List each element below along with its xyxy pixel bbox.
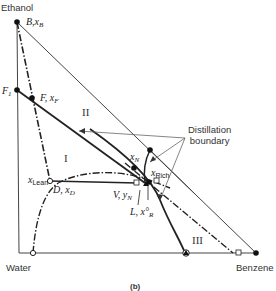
label-l-sub: R [149, 211, 153, 219]
label-xn: xN [130, 152, 139, 164]
point-water [30, 250, 35, 255]
ternary-diagram-graphics [0, 0, 276, 291]
label-d-name: D [53, 184, 60, 195]
label-v: V, yN [113, 190, 132, 202]
label-b: B,xB [26, 17, 43, 29]
point-f [29, 95, 35, 101]
region-label-i: I [64, 153, 68, 164]
label-xlean: xLean [28, 175, 48, 186]
label-l-var: x° [141, 206, 149, 217]
pointer-line-1 [79, 131, 185, 138]
label-f-sub: F [54, 97, 58, 105]
arrowhead-1 [79, 128, 85, 134]
point-bottom-square [236, 250, 241, 255]
point-v-square [134, 180, 139, 185]
vertex-label-water: Water [6, 263, 31, 274]
label-f-name: F [40, 92, 45, 103]
label-l: L, x°R [130, 207, 153, 219]
label-f1-sub: 1 [8, 90, 12, 98]
point-benzene [253, 250, 259, 256]
label-xrich: xRich [151, 168, 169, 179]
region-label-ii: II [82, 107, 89, 118]
label-l-name: L [130, 206, 136, 217]
ternary-diagram: Ethanol Water Benzene B,xB F1 F, xF xLea… [0, 0, 276, 291]
label-b-sub: B [39, 21, 43, 29]
point-d [47, 178, 52, 183]
point-f1 [14, 87, 20, 93]
v-marker-line [138, 190, 140, 205]
label-xrich-sub: Rich [155, 172, 169, 179]
label-xn-sub: N [134, 156, 139, 164]
annotation-line-2: boundary [188, 136, 231, 147]
vertex-label-ethanol: Ethanol [1, 3, 33, 14]
label-xlean-sub: Lean [32, 179, 48, 186]
label-v-sub: N [127, 194, 132, 202]
figure-caption: (b) [130, 282, 140, 291]
label-v-name: V [113, 189, 118, 200]
label-f: F, xF [40, 93, 59, 105]
region-label-iii: III [192, 235, 203, 246]
vertex-label-benzene: Benzene [236, 263, 274, 274]
label-b-name: B [26, 16, 32, 27]
label-d: D, xD [53, 185, 75, 197]
f1-to-l-line [17, 90, 145, 183]
label-f1: F1 [2, 86, 12, 98]
point-xn [131, 165, 137, 171]
point-xn-upper [147, 147, 153, 153]
label-d-sub: D [70, 189, 75, 197]
point-b [14, 19, 20, 25]
arrowhead-2 [150, 156, 156, 162]
left-edge [17, 22, 19, 253]
distillation-boundary-annotation: Distillation boundary [188, 125, 231, 147]
